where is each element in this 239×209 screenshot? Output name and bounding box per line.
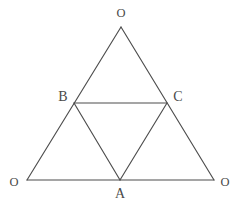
vertex-label-o-top: O [116, 7, 125, 20]
vertex-label-b: B [58, 90, 67, 104]
vertex-label-a: A [115, 187, 125, 201]
geometry-canvas [0, 0, 239, 209]
vertex-label-o-bottom-right: O [220, 176, 229, 189]
medial-ca [120, 103, 167, 180]
vertex-label-c: C [173, 90, 182, 104]
vertex-label-o-bottom-left: O [9, 176, 18, 189]
medial-ba [74, 103, 120, 180]
geometry-figure: O O O B C A [0, 0, 239, 209]
